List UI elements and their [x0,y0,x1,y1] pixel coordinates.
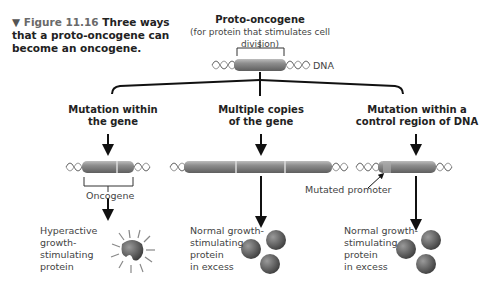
arrows-to-genes [108,134,416,150]
proto-oncogene-dna [212,59,310,71]
branch-1-result: Hyperactive growth- stimulating protein [40,225,97,273]
branch-2-result: Normal growth- stimulating protein in ex… [190,225,264,273]
branch-2-heading: Multiple copies of the gene [196,104,326,128]
proto-oncogene-subtitle: (for protein that stimulates cell divisi… [170,26,350,50]
mutated-promoter-label: Mutated promoter [305,184,391,196]
proto-oncogene-title: Proto-oncogene [200,14,320,26]
oncogene-label: Oncogene [86,190,134,202]
multiple-copies-dna [170,161,348,173]
branch-3-result: Normal growth- stimulating protein in ex… [344,225,418,273]
mutated-gene-dna [66,161,150,173]
mutated-promoter-dna [356,161,452,173]
hyperactive-protein-icon [111,230,155,273]
branch-3-heading: Mutation within a control region of DNA [350,104,484,128]
branch-lines [112,72,403,96]
branch-1-heading: Mutation within the gene [48,104,178,128]
dna-label: DNA [313,60,334,72]
